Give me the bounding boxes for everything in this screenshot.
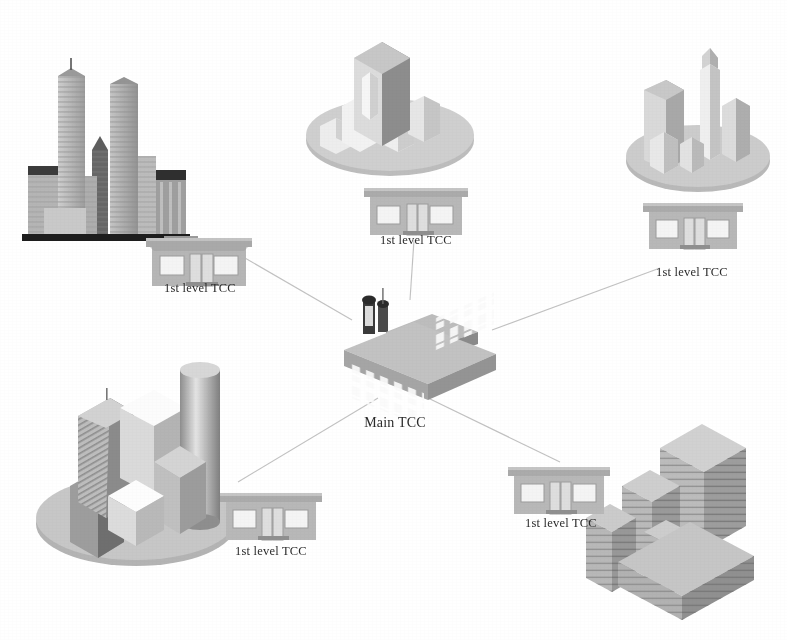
small-office-building-icon xyxy=(144,232,256,288)
factory-building-icon xyxy=(336,288,504,406)
city-skyline-towers-icon xyxy=(14,58,204,248)
link-main-to-bottom-left xyxy=(238,398,378,482)
city-disc-cylinder-tower-icon xyxy=(28,338,248,558)
node-label-bottom-left: 1st level TCC xyxy=(215,544,327,559)
node-label-top-left: 1st level TCC xyxy=(145,281,255,296)
node-label-bottom-right: 1st level TCC xyxy=(505,516,617,531)
city-disc-spire-icon xyxy=(622,48,782,198)
small-office-building-icon xyxy=(218,488,324,542)
small-office-building-icon xyxy=(362,183,470,237)
city-disc-block-tower-icon xyxy=(298,22,488,187)
diagram-canvas: 1st level TCC 1st level TCC xyxy=(0,0,787,640)
node-label-top-center: 1st level TCC xyxy=(361,233,471,248)
link-main-to-top-right xyxy=(492,268,660,330)
small-office-building-icon xyxy=(506,462,612,516)
hub-label-main-tcc: Main TCC xyxy=(340,415,450,431)
node-label-top-right: 1st level TCC xyxy=(637,265,747,280)
small-office-building-icon xyxy=(641,198,745,252)
